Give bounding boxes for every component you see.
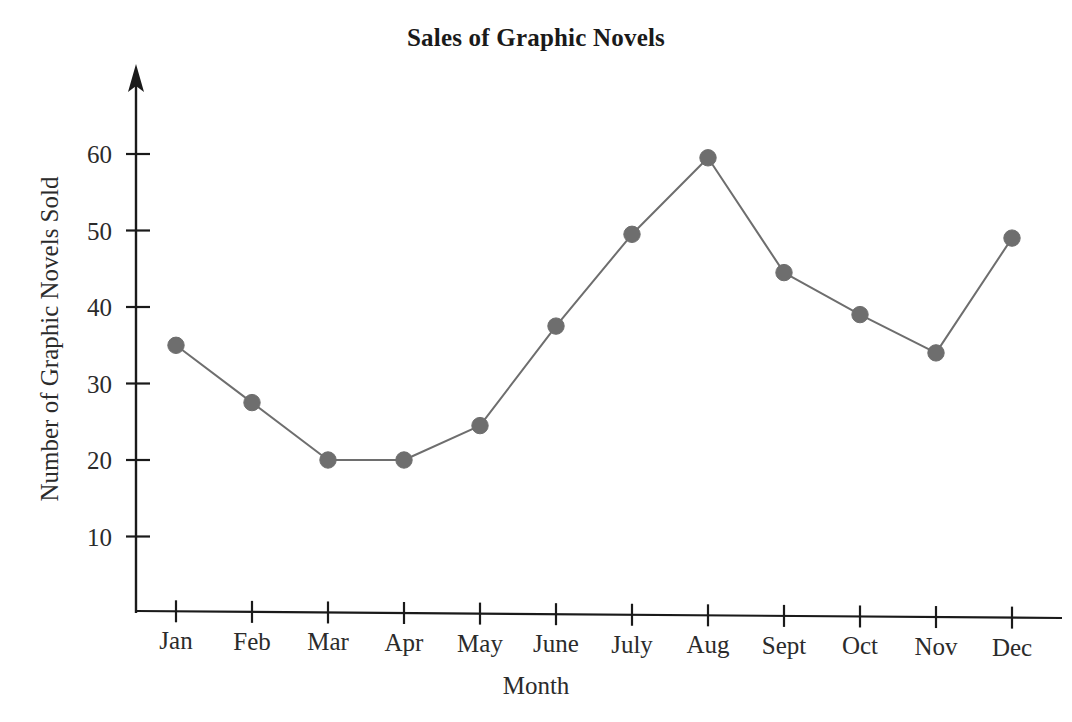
data-point-marker: [320, 452, 336, 468]
x-tick-label: Oct: [842, 632, 878, 659]
x-tick-label: Sept: [762, 632, 807, 659]
x-tick-label: Feb: [233, 628, 271, 655]
axes-group: [128, 64, 1062, 618]
x-tick-label: Dec: [992, 634, 1032, 661]
x-tick-label: Nov: [914, 633, 958, 660]
series-line: [176, 158, 1012, 460]
y-tick-label: 50: [87, 218, 112, 245]
x-tick-label: Jan: [159, 627, 193, 654]
data-point-marker: [624, 226, 640, 242]
data-point-marker: [1004, 230, 1020, 246]
data-series: [176, 158, 1012, 460]
data-point-marker: [852, 306, 868, 322]
y-tick-label: 30: [87, 371, 112, 398]
x-tick-label: Apr: [385, 629, 425, 656]
y-tick-label: 40: [87, 294, 112, 321]
x-axis-line: [136, 611, 1062, 618]
data-point-marker: [548, 318, 564, 334]
x-tick-label: Aug: [686, 631, 730, 658]
x-tick-label: Mar: [307, 628, 349, 655]
x-tick-label: June: [533, 630, 579, 657]
data-point-marker: [396, 452, 412, 468]
x-tick-group: JanFebMarAprMayJuneJulyAugSeptOctNovDec: [159, 600, 1032, 660]
x-tick-label: July: [611, 631, 653, 658]
plot-area: 102030405060 JanFebMarAprMayJuneJulyAugS…: [0, 0, 1072, 722]
x-tick-label: May: [457, 630, 503, 657]
data-point-marker: [168, 337, 184, 353]
y-tick-group: 102030405060: [87, 141, 150, 551]
y-tick-label: 60: [87, 141, 112, 168]
data-point-marker: [928, 345, 944, 361]
y-tick-label: 20: [87, 447, 112, 474]
data-point-marker: [700, 150, 716, 166]
data-point-marker: [244, 394, 260, 410]
data-point-marker: [776, 264, 792, 280]
data-markers: [168, 150, 1020, 469]
data-point-marker: [472, 417, 488, 433]
y-tick-label: 10: [87, 524, 112, 551]
line-chart: Sales of Graphic Novels Number of Graphi…: [0, 0, 1072, 722]
